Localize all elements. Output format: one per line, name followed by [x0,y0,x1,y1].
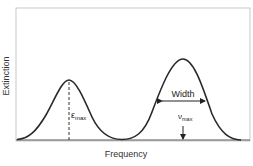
y-axis-label: Extinction [1,56,11,95]
vmax-label: νmax [178,112,193,122]
spectrum-chart: εmax Width νmax Frequency Extinction [0,0,253,166]
emax-label: εmax [71,110,86,121]
x-axis-label: Frequency [105,149,148,159]
spectrum-curve [17,59,241,140]
width-label: Width [171,89,194,99]
